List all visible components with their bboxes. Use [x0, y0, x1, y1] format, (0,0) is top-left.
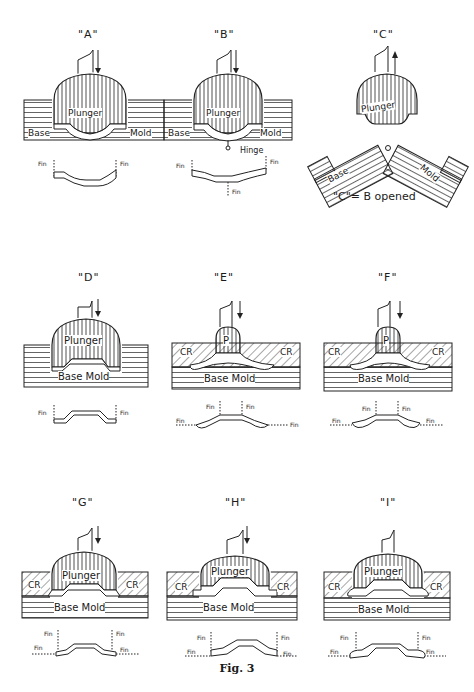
figure-caption: Fig. 3	[0, 662, 474, 675]
panel-g: "G" Plunger CR CR Base Mold Fin Fin Fin …	[20, 490, 170, 690]
panel-c: "C" Plunger Base Mold "C"= B opened	[305, 20, 470, 220]
fin-label: Fin	[176, 162, 184, 169]
panel-e: "E" P CR CR Base Mold Fin Fin Fin Fin	[170, 265, 320, 465]
panel-h: "H" Plunger CR CR Base Mold Fin Fin Fin …	[165, 490, 315, 690]
fin-label: Fin	[330, 648, 338, 655]
molded-part-profile	[170, 265, 320, 465]
arrow-up-icon	[392, 51, 398, 74]
fin-label: Fin	[340, 634, 348, 641]
fin-label: Fin	[120, 409, 128, 416]
fin-label: Fin	[270, 158, 278, 165]
fin-label: Fin	[38, 409, 46, 416]
fin-label: Fin	[44, 630, 52, 637]
molded-part-profile	[20, 490, 170, 690]
molded-part-profile	[320, 265, 470, 465]
fin-label: Fin	[426, 417, 434, 424]
molded-part-profile	[20, 20, 170, 220]
panel-d: "D" Plunger Base Mold Fin Fin	[20, 265, 170, 465]
fin-label: Fin	[232, 188, 240, 195]
molded-part-profile	[165, 490, 315, 690]
fin-label: Fin	[176, 417, 184, 424]
fin-label: Fin	[332, 417, 340, 424]
fin-label: Fin	[402, 405, 410, 412]
molded-part-profile	[20, 265, 170, 465]
fin-label: Fin	[120, 646, 128, 653]
fin-label: Fin	[206, 403, 214, 410]
fin-label: Fin	[422, 634, 430, 641]
fin-label: Fin	[290, 421, 298, 428]
fin-label: Fin	[120, 160, 128, 167]
panel-b: "B" Plunger Base Mold Hinge Fin Fin Fin	[162, 20, 312, 220]
fin-label: Fin	[187, 648, 195, 655]
fin-label: Fin	[283, 650, 291, 657]
panel-i: "I" Plunger CR CR Base Mold Fin Fin Fin …	[320, 490, 470, 690]
fin-label: Fin	[38, 160, 46, 167]
panel-f: "F" P CR CR Base Mold Fin Fin Fin Fin	[320, 265, 470, 465]
fin-label: Fin	[426, 648, 434, 655]
fin-label: Fin	[34, 644, 42, 651]
panel-a: "A" Plunger Base Mold Fin Fin	[20, 20, 170, 220]
hinge-icon	[386, 146, 391, 151]
molded-part-profile	[320, 490, 470, 690]
fin-label: Fin	[362, 405, 370, 412]
fin-label: Fin	[246, 403, 254, 410]
note-label: "C"= B opened	[333, 190, 416, 203]
fin-label: Fin	[116, 630, 124, 637]
fin-label: Fin	[197, 634, 205, 641]
fin-label: Fin	[281, 634, 289, 641]
